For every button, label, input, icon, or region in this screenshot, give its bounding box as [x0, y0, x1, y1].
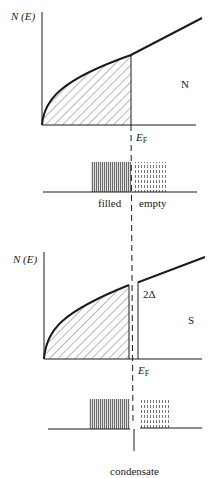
- top-state-label: N: [181, 79, 189, 90]
- density-of-states-diagram: [0, 0, 214, 478]
- filled-states-hatch: [42, 40, 132, 126]
- dos-curve-above-gap: [138, 257, 205, 282]
- filled-block: [91, 162, 131, 192]
- top-occupation-bar: [43, 162, 197, 192]
- condensate-caption: condensate: [110, 466, 159, 477]
- empty-label: empty: [139, 198, 167, 209]
- bottom-fermi-label: EF: [138, 365, 149, 378]
- gap-label: 2Δ: [143, 289, 156, 300]
- empty-block: [133, 162, 167, 192]
- filled-states-hatch: [44, 280, 130, 360]
- bottom-occupation-bar: [48, 399, 202, 451]
- fermi-level-dashed-line: [131, 125, 133, 425]
- top-y-axis-label: N (E): [11, 11, 35, 22]
- bottom-y-axis-label: N (E): [13, 254, 37, 265]
- filled-label: filled: [98, 198, 121, 209]
- bottom-state-label: S: [188, 315, 194, 326]
- bottom-dos-plot: [44, 252, 205, 360]
- condensate-empty-block: [140, 399, 171, 428]
- top-dos-plot: [42, 12, 202, 126]
- condensate-filled-block: [89, 399, 130, 429]
- top-fermi-label: EF: [136, 132, 147, 145]
